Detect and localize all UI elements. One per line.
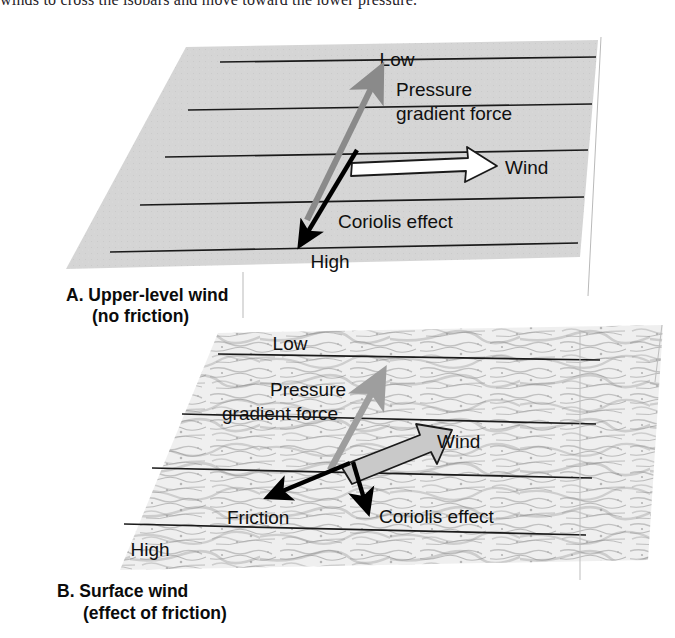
panel-b-caption-line1: B. Surface wind — [57, 581, 188, 601]
panel-b-wind-label: Wind — [437, 431, 480, 452]
panel-a-low-label: Low — [380, 49, 415, 70]
panel-b-high-label: High — [130, 539, 169, 560]
panel-a-pressure-gradient-label-line2: gradient force — [396, 103, 512, 124]
panel-b: Low High Pressure gradient force Wind Fr… — [57, 325, 663, 623]
panel-a-caption-line2: (no friction) — [92, 306, 189, 326]
panel-b-pressure-gradient-label-line1: Pressure — [270, 379, 346, 400]
panel-a-high-label: High — [310, 251, 349, 272]
panel-b-friction-label: Friction — [227, 507, 289, 528]
figure-stage: winds to cross the isobars and move towa… — [0, 0, 675, 638]
panel-a: Low High Pressure gradient force Wind Co… — [66, 37, 601, 326]
panel-b-low-label: Low — [273, 333, 308, 354]
panel-a-caption-line1: A. Upper-level wind — [66, 285, 228, 305]
panel-a-pressure-gradient-label-line1: Pressure — [396, 79, 472, 100]
panel-a-wind-label: Wind — [505, 157, 548, 178]
panel-b-coriolis-label: Coriolis effect — [379, 506, 494, 527]
panel-b-pressure-gradient-label-line2: gradient force — [222, 403, 338, 424]
wind-force-diagram: Low High Pressure gradient force Wind Co… — [0, 0, 675, 638]
panel-b-caption-line2: (effect of friction) — [83, 603, 227, 623]
panel-a-coriolis-label: Coriolis effect — [338, 211, 453, 232]
